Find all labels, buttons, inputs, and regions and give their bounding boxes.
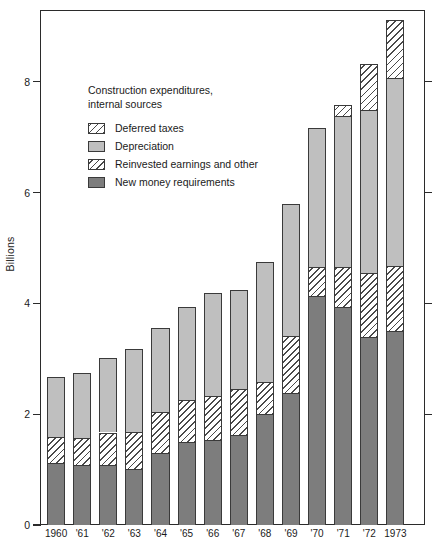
segment-reinvested-earnings bbox=[282, 336, 300, 394]
bar-71 bbox=[334, 10, 352, 525]
segment-reinvested-earnings bbox=[386, 266, 404, 331]
segment-deferred-taxes bbox=[360, 64, 378, 110]
legend: Construction expenditures, internal sour… bbox=[88, 84, 318, 192]
y-tick-mark-right bbox=[424, 414, 432, 415]
segment-reinvested-earnings bbox=[256, 382, 274, 414]
legend-item: Depreciation bbox=[88, 138, 318, 155]
segment-reinvested-earnings bbox=[360, 273, 378, 337]
segment-new-money bbox=[230, 435, 248, 525]
segment-new-money bbox=[99, 465, 117, 525]
segment-reinvested-earnings bbox=[230, 389, 248, 435]
y-tick-label: 4 bbox=[10, 296, 30, 310]
legend-swatch-icon bbox=[88, 159, 105, 170]
y-tick-label: 6 bbox=[10, 186, 30, 200]
segment-depreciation bbox=[334, 116, 352, 267]
legend-item: New money requirements bbox=[88, 174, 318, 191]
legend-swatch-icon bbox=[88, 123, 105, 134]
y-tick-mark-right bbox=[424, 192, 432, 193]
segment-reinvested-earnings bbox=[47, 437, 65, 463]
legend-label: Deferred taxes bbox=[115, 122, 184, 135]
legend-label: New money requirements bbox=[115, 176, 235, 189]
legend-label: Reinvested earnings and other bbox=[115, 158, 258, 171]
segment-new-money bbox=[360, 337, 378, 525]
segment-depreciation bbox=[178, 307, 196, 400]
chart-figure: Billions 86420 1960'61'62'63'64'65'66'67… bbox=[0, 0, 434, 556]
segment-new-money bbox=[73, 465, 91, 525]
legend-item: Reinvested earnings and other bbox=[88, 156, 318, 173]
segment-reinvested-earnings bbox=[73, 438, 91, 465]
segment-reinvested-earnings bbox=[151, 412, 169, 453]
bar-1960 bbox=[47, 10, 65, 525]
y-tick-label: 0 bbox=[10, 518, 30, 532]
segment-depreciation bbox=[256, 262, 274, 382]
segment-new-money bbox=[204, 440, 222, 525]
legend-swatch-icon bbox=[88, 141, 105, 152]
y-tick-mark-right bbox=[424, 81, 432, 82]
segment-depreciation bbox=[204, 293, 222, 395]
segment-depreciation bbox=[125, 349, 143, 432]
segment-reinvested-earnings bbox=[178, 400, 196, 442]
x-axis-labels: 1960'61'62'63'64'65'66'67'68'69'70'71'72… bbox=[40, 528, 425, 548]
x-label-1973: 1973 bbox=[378, 528, 412, 539]
bar-72 bbox=[360, 10, 378, 525]
segment-new-money bbox=[256, 414, 274, 525]
segment-new-money bbox=[386, 331, 404, 525]
segment-new-money bbox=[282, 393, 300, 525]
segment-new-money bbox=[151, 453, 169, 525]
segment-reinvested-earnings bbox=[125, 432, 143, 469]
segment-depreciation bbox=[360, 110, 378, 273]
segment-depreciation bbox=[99, 358, 117, 432]
segment-reinvested-earnings bbox=[99, 433, 117, 466]
legend-items: Deferred taxesDepreciationReinvested ear… bbox=[88, 120, 318, 191]
segment-depreciation bbox=[151, 328, 169, 412]
segment-depreciation bbox=[230, 290, 248, 390]
segment-deferred-taxes bbox=[334, 105, 352, 116]
y-tick-label: 8 bbox=[10, 75, 30, 89]
segment-deferred-taxes bbox=[386, 20, 404, 78]
y-tick-mark-right bbox=[424, 303, 432, 304]
bar-1973 bbox=[386, 10, 404, 525]
segment-depreciation bbox=[386, 78, 404, 266]
segment-new-money bbox=[125, 469, 143, 526]
segment-depreciation bbox=[47, 377, 65, 437]
y-axis-title: Billions bbox=[4, 224, 16, 284]
segment-new-money bbox=[334, 307, 352, 525]
legend-item: Deferred taxes bbox=[88, 120, 318, 137]
segment-reinvested-earnings bbox=[308, 267, 326, 296]
y-tick-label: 2 bbox=[10, 407, 30, 421]
segment-new-money bbox=[308, 296, 326, 525]
segment-reinvested-earnings bbox=[204, 396, 222, 440]
legend-title: Construction expenditures, internal sour… bbox=[88, 84, 318, 111]
legend-label: Depreciation bbox=[115, 140, 174, 153]
segment-reinvested-earnings bbox=[334, 267, 352, 307]
legend-swatch-icon bbox=[88, 177, 105, 188]
segment-depreciation bbox=[282, 204, 300, 336]
segment-new-money bbox=[178, 442, 196, 525]
segment-depreciation bbox=[73, 373, 91, 438]
segment-new-money bbox=[47, 463, 65, 525]
